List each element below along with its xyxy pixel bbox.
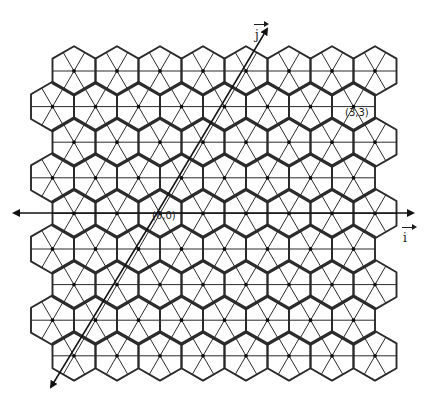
hex-cell	[53, 46, 96, 96]
hex-cell	[117, 153, 160, 203]
hex-cell	[139, 331, 182, 381]
hex-cell	[246, 153, 289, 203]
j-axis-negative-line	[51, 213, 157, 387]
hex-cell	[160, 153, 203, 203]
hex-cell	[96, 331, 139, 381]
hex-cell	[289, 82, 332, 132]
hex-cell	[246, 295, 289, 345]
hex-cell	[74, 224, 117, 274]
hex-cell	[31, 82, 74, 132]
j-axis-label: j	[255, 29, 259, 41]
hex-cell	[203, 295, 246, 345]
hex-cell	[203, 224, 246, 274]
hex-cell	[332, 153, 375, 203]
hex-cell	[225, 117, 268, 167]
hex-cell	[332, 224, 375, 274]
hex-cell	[31, 224, 74, 274]
hex-cell	[289, 153, 332, 203]
hex-cell	[311, 117, 354, 167]
hex-cell	[182, 331, 225, 381]
hex-cell	[117, 295, 160, 345]
hex-cell	[289, 295, 332, 345]
hex-cell	[74, 153, 117, 203]
hex-cell	[53, 117, 96, 167]
hex-cell	[354, 260, 397, 310]
hex-cell	[182, 46, 225, 96]
hex-cell	[96, 117, 139, 167]
hex-cell	[182, 260, 225, 310]
hex-cell	[268, 331, 311, 381]
point-3-3-label: (3,3)	[345, 108, 369, 118]
hex-cell	[182, 117, 225, 167]
hex-cell	[311, 46, 354, 96]
hex-cell	[160, 82, 203, 132]
hex-cell	[203, 153, 246, 203]
hex-cell	[117, 224, 160, 274]
hex-cell	[246, 82, 289, 132]
hex-cell	[354, 46, 397, 96]
hex-cell	[311, 260, 354, 310]
vector-arrowhead-icon	[264, 21, 269, 27]
hex-cell	[268, 46, 311, 96]
hex-cell	[354, 331, 397, 381]
hex-cell	[311, 331, 354, 381]
hex-cell	[160, 224, 203, 274]
hex-cell	[139, 260, 182, 310]
vector-arrowhead-icon	[412, 224, 417, 230]
hex-cell	[74, 82, 117, 132]
hex-lattice-diagram	[0, 0, 433, 407]
hex-cell	[246, 224, 289, 274]
hex-cell	[289, 224, 332, 274]
hex-cell	[53, 260, 96, 310]
hex-cell	[139, 46, 182, 96]
hex-cell	[96, 46, 139, 96]
hex-cell	[268, 117, 311, 167]
hex-cell	[332, 295, 375, 345]
hex-cell	[354, 117, 397, 167]
hex-cell	[117, 82, 160, 132]
origin-label: (0,0)	[152, 211, 176, 221]
hex-cell	[31, 295, 74, 345]
i-axis-label: i	[403, 232, 407, 244]
hex-cell	[225, 260, 268, 310]
hex-cell	[225, 331, 268, 381]
hex-cell	[160, 295, 203, 345]
hex-cell	[139, 117, 182, 167]
hex-cell	[268, 260, 311, 310]
hex-cell	[31, 153, 74, 203]
